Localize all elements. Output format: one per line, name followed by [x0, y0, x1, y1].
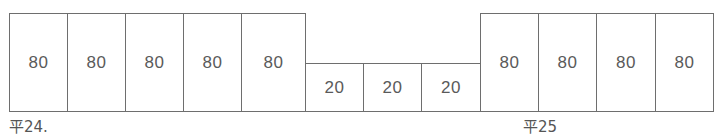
- era-label-right: 平25: [523, 120, 557, 135]
- dimension-cell: 80: [241, 13, 306, 112]
- dimension-cell-value: 20: [383, 79, 403, 96]
- dimension-cell-value: 80: [264, 54, 284, 71]
- era-label-left: 平24.: [9, 120, 48, 135]
- dimension-cell-value: 80: [558, 54, 578, 71]
- dimension-cell-value: 80: [675, 54, 695, 71]
- dimension-cell: 80: [67, 13, 126, 112]
- dimension-strip-diagram: 808080808020202080808080平24.平25: [0, 0, 728, 139]
- dimension-cell: 20: [363, 63, 422, 112]
- dimension-cell: 80: [183, 13, 242, 112]
- dimension-cell-value: 80: [145, 54, 165, 71]
- dimension-cell-value: 80: [203, 54, 223, 71]
- dimension-cell-value: 80: [87, 54, 107, 71]
- dimension-cell: 80: [538, 13, 597, 112]
- dimension-cell: 80: [596, 13, 656, 112]
- dimension-cell: 20: [421, 63, 481, 112]
- dimension-cell: 80: [480, 13, 539, 112]
- dimension-cell: 80: [655, 13, 714, 112]
- dimension-cell-value: 20: [325, 79, 345, 96]
- dimension-cell: 80: [125, 13, 184, 112]
- dimension-cell-value: 80: [500, 54, 520, 71]
- dimension-cell-value: 80: [29, 54, 49, 71]
- dimension-cell-value: 20: [441, 79, 461, 96]
- dimension-cell: 20: [305, 63, 364, 112]
- dimension-cell: 80: [9, 13, 68, 112]
- dimension-cell-value: 80: [616, 54, 636, 71]
